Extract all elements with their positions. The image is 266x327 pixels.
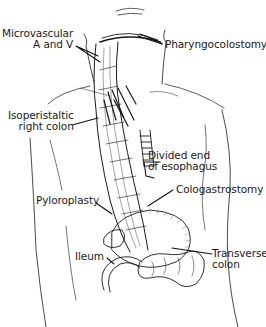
ileum-loop xyxy=(102,257,142,292)
label-transverse-colon: Transverse colon xyxy=(212,248,266,270)
surgical-diagram: Microvascular A and V Pharyngocolostomy … xyxy=(0,0,266,327)
left-flank xyxy=(66,226,76,300)
label-divided-end-line2: of esophagus xyxy=(148,161,217,172)
transverse-colon-haustra xyxy=(152,256,194,276)
leader-transverse xyxy=(172,248,212,254)
torso-right-inner xyxy=(202,125,206,230)
leader-cologastrostomy xyxy=(148,190,173,206)
label-isoperistaltic-line2: right colon xyxy=(8,121,74,132)
torso-left-inner xyxy=(50,140,62,190)
label-pharyngocolostomy-line1: Pharyngocolostomy xyxy=(165,39,266,50)
label-pharyngocolostomy: Pharyngocolostomy xyxy=(165,39,266,50)
label-microvascular-line2: A and V xyxy=(2,39,73,50)
mesentery-vessels xyxy=(104,86,136,126)
transverse-colon xyxy=(138,251,204,287)
label-transverse-colon-line2: colon xyxy=(212,259,266,270)
torso-left xyxy=(30,138,46,327)
label-microvascular: Microvascular A and V xyxy=(2,28,73,50)
neck-left xyxy=(84,34,94,82)
clavicle-right xyxy=(150,92,178,97)
stomach-hatch xyxy=(150,210,190,253)
label-ileum-line1: Ileum xyxy=(75,251,104,262)
label-cologastrostomy: Cologastrostomy xyxy=(176,184,263,195)
label-isoperistaltic: Isoperistaltic right colon xyxy=(8,110,74,132)
label-pyloroplasty: Pyloroplasty xyxy=(36,195,99,206)
shoulder-left xyxy=(48,86,90,104)
chin-outline xyxy=(116,8,144,15)
label-divided-end: Divided end of esophagus xyxy=(148,150,217,172)
label-ileum: Ileum xyxy=(75,251,104,262)
label-pyloroplasty-line1: Pyloroplasty xyxy=(36,195,99,206)
colon-conduit-left-wall xyxy=(94,44,130,252)
shoulder-right xyxy=(165,84,224,108)
colon-taenia xyxy=(103,48,136,248)
label-cologastrostomy-line1: Cologastrostomy xyxy=(176,184,263,195)
pylorus xyxy=(104,230,125,248)
leader-isoperistaltic xyxy=(72,118,98,125)
torso-right xyxy=(222,110,238,327)
leader-microvascular xyxy=(76,46,100,62)
